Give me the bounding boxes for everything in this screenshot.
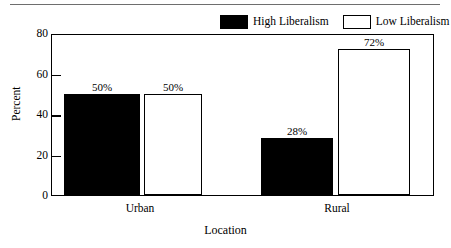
y-tick-label-80: 80 bbox=[37, 28, 49, 40]
bar-urban-low-liberalism bbox=[144, 94, 202, 195]
legend-entry-high-liberalism: High Liberalism bbox=[220, 15, 329, 29]
legend-entry-low-liberalism: Low Liberalism bbox=[343, 15, 450, 29]
y-tick-mark-40 bbox=[52, 115, 61, 117]
legend-swatch-low-liberalism-icon bbox=[343, 15, 371, 29]
y-tick-mark-20 bbox=[52, 156, 61, 158]
bar-rural-low-liberalism bbox=[338, 49, 410, 195]
y-tick-label-20: 20 bbox=[37, 150, 49, 162]
y-axis-title: Percent bbox=[11, 74, 23, 134]
x-tick-label-urban: Urban bbox=[126, 203, 155, 215]
plot-area: 50% 50% 28% 72% bbox=[51, 34, 434, 196]
bar-value-rural-high: 28% bbox=[287, 126, 307, 137]
y-tick-label-40: 40 bbox=[37, 109, 49, 121]
bar-value-urban-low: 50% bbox=[163, 82, 183, 93]
bar-value-urban-high: 50% bbox=[92, 82, 112, 93]
bar-urban-high-liberalism bbox=[64, 94, 140, 195]
legend-swatch-high-liberalism-icon bbox=[220, 15, 248, 29]
x-tick-label-rural: Rural bbox=[324, 203, 350, 215]
x-axis-title: Location bbox=[0, 224, 451, 236]
bar-value-rural-low: 72% bbox=[364, 37, 384, 48]
chart-legend: High Liberalism Low Liberalism bbox=[220, 13, 449, 30]
legend-label-low-liberalism: Low Liberalism bbox=[376, 16, 450, 28]
top-divider-rule bbox=[10, 4, 440, 5]
y-tick-mark-60 bbox=[52, 75, 61, 77]
y-tick-label-60: 60 bbox=[37, 69, 49, 81]
chart-figure: High Liberalism Low Liberalism 80 60 40 … bbox=[0, 0, 451, 248]
legend-label-high-liberalism: High Liberalism bbox=[253, 16, 329, 28]
bar-rural-high-liberalism bbox=[261, 138, 333, 195]
y-tick-label-0: 0 bbox=[42, 190, 48, 202]
